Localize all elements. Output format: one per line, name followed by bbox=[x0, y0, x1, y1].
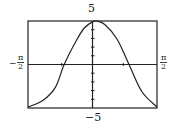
y-max-label: 5 bbox=[88, 3, 95, 14]
x-min-label: π 2 bbox=[17, 54, 24, 71]
y-min-label: −5 bbox=[85, 112, 101, 123]
x-max-denominator: 2 bbox=[160, 63, 167, 71]
x-max-label: π 2 bbox=[160, 54, 167, 71]
x-min-denominator: 2 bbox=[17, 63, 24, 71]
plot-area bbox=[0, 0, 177, 126]
x-min-sign: − bbox=[9, 59, 17, 68]
